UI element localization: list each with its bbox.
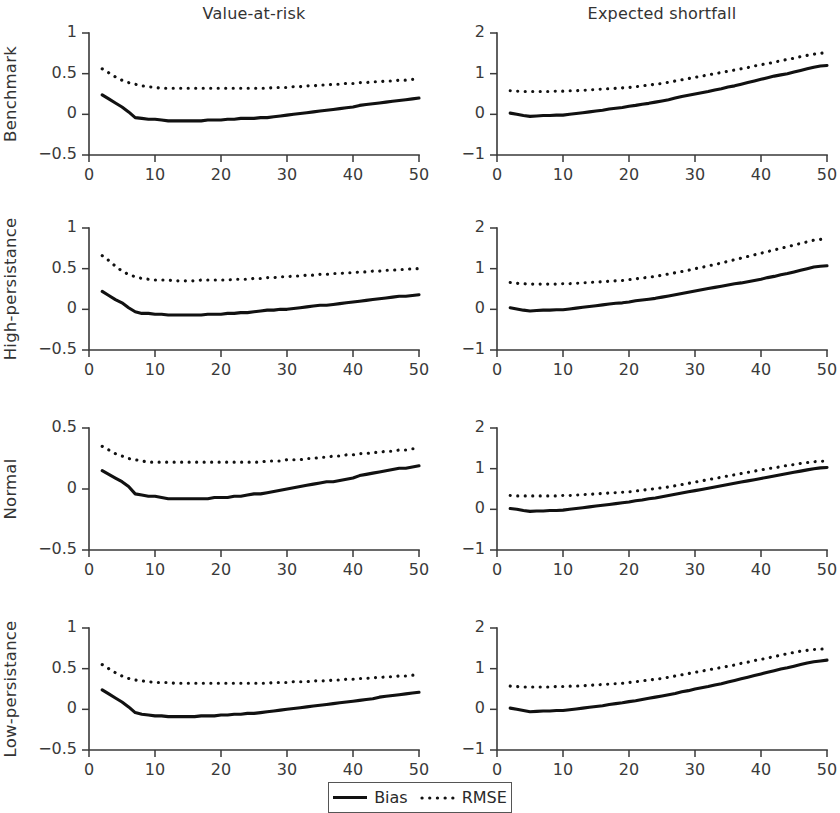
y-tick-label: 1: [417, 458, 485, 477]
x-tick-label: 50: [394, 360, 444, 379]
y-tick-label: 0: [417, 698, 485, 717]
y-tick-label: 2: [417, 617, 485, 636]
y-tick-label: −1: [417, 144, 485, 163]
y-tick-label: 0: [9, 298, 77, 317]
x-tick-label: 20: [604, 560, 654, 579]
x-tick-label: 10: [538, 560, 588, 579]
x-tick-label: 20: [196, 560, 246, 579]
x-tick-label: 30: [670, 360, 720, 379]
y-tick-label: 0: [417, 498, 485, 517]
y-tick-label: 0: [9, 103, 77, 122]
series-line-bias: [510, 660, 827, 712]
x-tick-label: 20: [604, 760, 654, 779]
x-tick-label: 50: [394, 560, 444, 579]
x-tick-label: 0: [472, 360, 522, 379]
axis-spines: [497, 628, 827, 750]
series-line-bias: [102, 690, 419, 717]
x-tick-label: 40: [328, 360, 378, 379]
x-tick-label: 20: [604, 165, 654, 184]
x-tick-label: 30: [262, 360, 312, 379]
x-tick-label: 10: [538, 760, 588, 779]
y-tick-label: 0.5: [9, 658, 77, 677]
x-tick-label: 20: [196, 165, 246, 184]
row-label-low-persistance: Low-persistance: [1, 621, 20, 758]
x-tick-label: 50: [394, 165, 444, 184]
x-tick-label: 30: [670, 560, 720, 579]
y-tick-label: −0.5: [9, 144, 77, 163]
y-tick-label: 1: [417, 258, 485, 277]
y-tick-label: 0.5: [9, 258, 77, 277]
x-tick-label: 30: [262, 165, 312, 184]
dotted-line-swatch: [421, 796, 455, 799]
axis-spines: [497, 33, 827, 155]
x-tick-label: 50: [802, 760, 840, 779]
y-tick-label: 1: [9, 22, 77, 41]
y-tick-label: −0.5: [9, 539, 77, 558]
y-tick-label: 2: [417, 217, 485, 236]
y-tick-label: 1: [417, 63, 485, 82]
x-tick-label: 40: [736, 165, 786, 184]
y-tick-label: 1: [417, 658, 485, 677]
y-tick-label: −0.5: [9, 339, 77, 358]
axis-spines: [497, 428, 827, 550]
x-tick-label: 10: [130, 560, 180, 579]
axis-spines: [89, 428, 419, 550]
x-tick-label: 10: [130, 360, 180, 379]
x-tick-label: 30: [670, 760, 720, 779]
legend-entry-bias: Bias: [333, 788, 408, 807]
multi-panel-line-chart: Value-at-riskExpected shortfallBenchmark…: [0, 0, 840, 813]
column-title-expected-shortfall: Expected shortfall: [477, 4, 840, 23]
x-tick-label: 40: [736, 360, 786, 379]
series-line-bias: [102, 291, 419, 315]
series-line-bias: [102, 95, 419, 121]
row-label-benchmark: Benchmark: [1, 46, 20, 142]
x-tick-label: 0: [472, 165, 522, 184]
y-tick-label: 0: [9, 478, 77, 497]
y-tick-label: 0: [417, 103, 485, 122]
x-tick-label: 0: [64, 560, 114, 579]
series-line-rmse: [102, 256, 419, 281]
y-tick-label: 1: [9, 217, 77, 236]
series-line-bias: [510, 66, 827, 117]
y-tick-label: 2: [417, 417, 485, 436]
axis-spines: [89, 33, 419, 155]
x-tick-label: 0: [472, 760, 522, 779]
x-tick-label: 40: [328, 560, 378, 579]
series-line-rmse: [510, 461, 827, 496]
x-tick-label: 50: [802, 560, 840, 579]
x-tick-label: 50: [394, 760, 444, 779]
y-tick-label: −0.5: [9, 739, 77, 758]
x-tick-label: 30: [262, 560, 312, 579]
series-line-rmse: [102, 665, 419, 684]
y-tick-label: 0: [9, 698, 77, 717]
x-tick-label: 40: [328, 165, 378, 184]
x-tick-label: 10: [130, 760, 180, 779]
x-tick-label: 0: [64, 760, 114, 779]
x-tick-label: 20: [196, 760, 246, 779]
y-tick-label: 0.5: [9, 417, 77, 436]
y-tick-label: −1: [417, 739, 485, 758]
x-tick-label: 30: [262, 760, 312, 779]
series-line-rmse: [102, 69, 419, 89]
y-tick-label: 2: [417, 22, 485, 41]
y-tick-label: 1: [9, 617, 77, 636]
series-line-bias: [510, 266, 827, 311]
x-tick-label: 10: [538, 360, 588, 379]
series-line-rmse: [510, 239, 827, 285]
y-tick-label: −1: [417, 339, 485, 358]
y-tick-label: 0: [417, 298, 485, 317]
x-tick-label: 50: [802, 360, 840, 379]
chart-legend: BiasRMSE: [328, 782, 512, 813]
x-tick-label: 40: [736, 760, 786, 779]
x-tick-label: 0: [64, 360, 114, 379]
y-tick-label: 0.5: [9, 63, 77, 82]
x-tick-label: 10: [538, 165, 588, 184]
x-tick-label: 10: [130, 165, 180, 184]
series-line-bias: [510, 467, 827, 511]
series-line-rmse: [102, 446, 419, 462]
legend-label: RMSE: [462, 788, 507, 807]
x-tick-label: 50: [802, 165, 840, 184]
series-line-rmse: [510, 649, 827, 687]
x-tick-label: 0: [472, 560, 522, 579]
x-tick-label: 40: [736, 560, 786, 579]
